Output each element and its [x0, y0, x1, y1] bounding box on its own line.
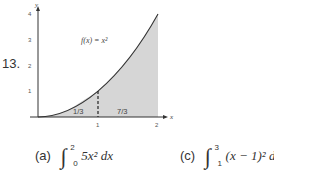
lower-limit: 0 — [73, 159, 77, 168]
upper-limit: 3 — [214, 143, 218, 152]
svg-text:2: 2 — [28, 63, 32, 69]
choice-c: (c) ∫ 3 1 (x − 1)² dx — [180, 140, 274, 166]
choice-label: (c) — [180, 148, 195, 163]
svg-text:4: 4 — [28, 11, 32, 17]
integral-sign-icon: ∫ — [205, 144, 211, 169]
choice-label: (a) — [35, 148, 51, 163]
svg-text:2: 2 — [155, 122, 159, 128]
upper-limit: 2 — [70, 143, 74, 152]
svg-text:1: 1 — [28, 88, 32, 94]
svg-text:7/3: 7/3 — [117, 107, 127, 116]
choice-a: (a) ∫ 2 0 5x² dx — [35, 140, 113, 166]
lower-limit: 1 — [218, 159, 222, 168]
svg-text:3: 3 — [28, 37, 32, 43]
svg-text:f(x) = x²: f(x) = x² — [81, 36, 108, 45]
svg-text:1/3: 1/3 — [73, 107, 83, 116]
svg-text:x: x — [169, 113, 174, 121]
integral-sign-icon: ∫ — [61, 144, 67, 169]
integrand: 5x² dx — [81, 148, 113, 163]
integrand: (x − 1)² dx — [226, 148, 274, 163]
svg-text:1: 1 — [96, 122, 100, 128]
